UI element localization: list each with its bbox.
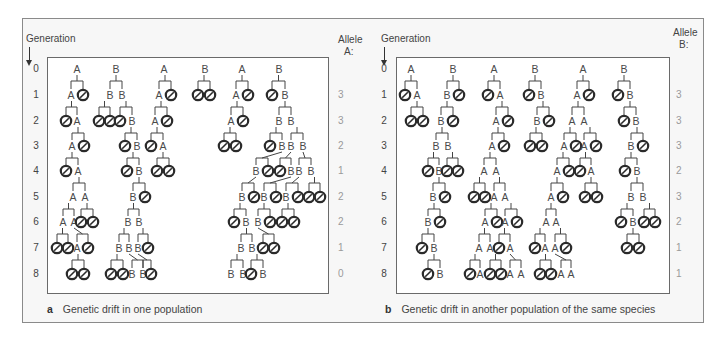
caption-b-text: Genetic drift in another population of t… [401,303,655,315]
generation-arrow-a [29,47,30,61]
generation-label-a: Generation [26,34,75,44]
allele-b-sublabel: B: [679,40,688,50]
generation-number: 7 [379,243,389,253]
allele-count: 3 [676,116,682,126]
generation-number: 3 [31,141,41,151]
generation-number: 4 [379,166,389,176]
allele-count: 2 [338,192,344,202]
caption-a-letter: a [47,303,53,315]
allele-count: 3 [338,116,344,126]
allele-count: 0 [338,269,344,279]
generation-number: 2 [31,116,41,126]
generation-number: 1 [31,90,41,100]
generation-number: 3 [379,141,389,151]
allele-count: 2 [676,166,682,176]
generation-number: 5 [31,192,41,202]
generation-number: 4 [31,166,41,176]
allele-count: 1 [676,269,682,279]
generation-arrow-b [384,47,385,61]
caption-a: aGenetic drift in one population [47,304,202,315]
allele-count: 3 [676,192,682,202]
panel-a-box [47,57,329,294]
allele-count: 3 [676,141,682,151]
allele-count: 2 [338,141,344,151]
generation-number: 6 [379,217,389,227]
allele-count: 2 [338,217,344,227]
allele-b-label: Allele [673,28,697,38]
generation-number: 8 [31,269,41,279]
caption-b-letter: b [385,303,391,315]
generation-number: 0 [31,64,41,74]
allele-count: 1 [338,243,344,253]
generation-label-b: Generation [381,34,430,44]
allele-count: 1 [338,166,344,176]
allele-count: 3 [338,90,344,100]
caption-a-text: Genetic drift in one population [63,303,203,315]
panel-b-box [396,57,670,294]
generation-number: 2 [379,116,389,126]
caption-b: bGenetic drift in another population of … [385,304,655,315]
figure-frame: Generation Allele A: aGenetic drift in o… [22,18,704,323]
allele-count: 2 [676,217,682,227]
allele-count: 3 [676,90,682,100]
allele-a-sublabel: A: [344,47,353,57]
generation-number: 0 [379,64,389,74]
generation-number: 1 [379,90,389,100]
allele-a-label: Allele [338,35,362,45]
generation-number: 7 [31,243,41,253]
generation-number: 8 [379,269,389,279]
generation-number: 5 [379,192,389,202]
allele-count: 1 [676,243,682,253]
generation-number: 6 [31,217,41,227]
